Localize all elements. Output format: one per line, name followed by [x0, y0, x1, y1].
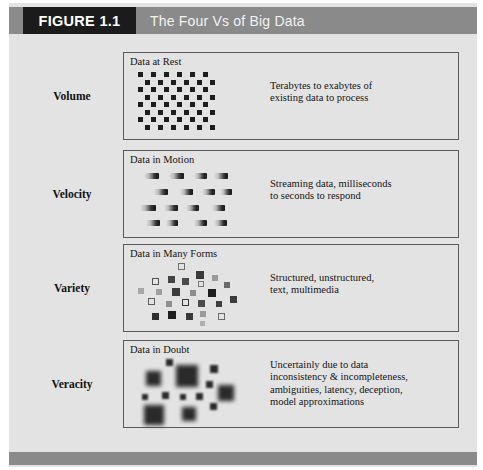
veracity-square [182, 407, 196, 421]
variety-square [200, 321, 205, 326]
box-title-velocity: Data in Motion [130, 154, 194, 165]
volume-dot [138, 117, 143, 122]
volume-dot [138, 72, 143, 77]
volume-dot [210, 80, 215, 85]
variety-square [230, 296, 237, 303]
box-description-veracity: Uncertainly due to data inconsistency & … [270, 359, 450, 409]
variety-square [216, 301, 222, 307]
row-box-volume: Data at Rest Terabytes to exabytes of ex… [123, 52, 459, 140]
volume-dot [197, 80, 202, 85]
veracity-square [206, 381, 213, 388]
volume-dot [145, 95, 150, 100]
veracity-blur-graphic [132, 357, 264, 425]
velocity-dash [202, 189, 215, 195]
variety-square [156, 289, 162, 295]
variety-square [198, 300, 205, 307]
volume-dot [164, 87, 169, 92]
figure-row-veracity: Veracity Data in Doubt Uncertainly due t… [27, 340, 459, 428]
volume-dot [164, 72, 169, 77]
variety-square [196, 271, 204, 279]
variety-square [178, 263, 185, 270]
velocity-dash [180, 189, 193, 195]
velocity-dash [154, 189, 168, 195]
volume-dot [197, 95, 202, 100]
volume-dot [177, 102, 182, 107]
volume-dot [197, 110, 202, 115]
row-label-veracity: Veracity [27, 340, 117, 428]
veracity-square [210, 403, 217, 410]
volume-dot [184, 110, 189, 115]
figure-header-bar: FIGURE 1.1 The Four Vs of Big Data [9, 7, 477, 34]
variety-square [152, 313, 159, 320]
variety-square [190, 290, 196, 296]
velocity-dash [214, 173, 228, 179]
row-label-variety: Variety [27, 244, 117, 332]
variety-square [182, 278, 189, 285]
volume-dot [177, 87, 182, 92]
velocity-motion-graphic [132, 167, 264, 235]
volume-dot [210, 110, 215, 115]
box-title-variety: Data in Many Forms [130, 248, 217, 259]
variety-square [138, 288, 144, 294]
figure-root: FIGURE 1.1 The Four Vs of Big Data Volum… [0, 0, 483, 470]
velocity-dash [166, 220, 178, 226]
row-label-volume: Volume [27, 52, 117, 140]
volume-dot [151, 72, 156, 77]
box-description-velocity: Streaming data, milliseconds to seconds … [270, 178, 450, 203]
velocity-dash [214, 220, 227, 226]
volume-dot [190, 87, 195, 92]
volume-dot [138, 102, 143, 107]
volume-dot [190, 72, 195, 77]
veracity-square [166, 359, 173, 366]
row-box-velocity: Data in Motion Streaming data, milliseco… [123, 150, 459, 238]
velocity-dash [194, 173, 207, 179]
volume-dot [184, 125, 189, 130]
volume-dot [171, 95, 176, 100]
veracity-square [218, 385, 234, 401]
velocity-dash [186, 205, 199, 211]
variety-square [148, 298, 155, 305]
velocity-dash [144, 173, 159, 179]
volume-dot [210, 125, 215, 130]
volume-dot [177, 72, 182, 77]
volume-dot [158, 125, 163, 130]
row-box-veracity: Data in Doubt Uncertainly due to data in… [123, 340, 459, 428]
volume-dot [203, 102, 208, 107]
volume-dot [171, 80, 176, 85]
volume-dot [190, 117, 195, 122]
variety-square [208, 289, 216, 297]
volume-dot [203, 72, 208, 77]
figure-row-volume: Volume Data at Rest Terabytes to exabyte… [27, 52, 459, 140]
variety-square [200, 311, 206, 317]
volume-dot [164, 102, 169, 107]
volume-dot [184, 95, 189, 100]
volume-dot [203, 117, 208, 122]
veracity-square [162, 392, 169, 399]
volume-dot [171, 110, 176, 115]
figure-number-label: FIGURE 1.1 [39, 13, 121, 29]
veracity-square [146, 371, 161, 386]
box-description-variety: Structured, unstructured, text, multimed… [270, 272, 450, 297]
volume-dot [151, 87, 156, 92]
velocity-dash [212, 205, 225, 211]
variety-square [152, 278, 159, 285]
figure-footer-bar [9, 452, 477, 465]
volume-dot [197, 125, 202, 130]
velocity-dash [164, 205, 178, 211]
volume-dot [184, 80, 189, 85]
veracity-square [210, 365, 218, 373]
variety-square [218, 313, 225, 320]
volume-dot [138, 87, 143, 92]
variety-square [172, 288, 180, 296]
box-title-veracity: Data in Doubt [130, 344, 190, 355]
velocity-dash [169, 173, 184, 179]
row-box-variety: Data in Many Forms Structured, unstructu… [123, 244, 459, 332]
volume-dot [203, 87, 208, 92]
velocity-dash [194, 220, 207, 226]
variety-square [186, 313, 193, 320]
variety-square [224, 282, 230, 288]
variety-square [182, 299, 189, 306]
figure-row-velocity: Velocity Data in Motion Streaming data, … [27, 150, 459, 238]
veracity-square [176, 365, 198, 387]
volume-grid-graphic [132, 69, 264, 137]
